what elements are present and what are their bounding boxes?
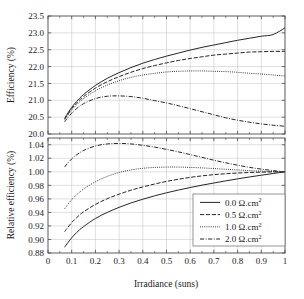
- legend-label-3[interactable]: 2.0 Ω.cm2: [225, 233, 262, 244]
- x-tick-label: 0.4: [137, 256, 149, 266]
- lower-y-axis-label: Relative efficiency (%): [6, 151, 17, 239]
- lower-y-tick-label: 1.04: [28, 140, 44, 150]
- x-tick-label: 0.2: [90, 256, 101, 266]
- lower-y-tick-label: 0.88: [28, 248, 44, 258]
- upper-y-tick-label: 21.5: [28, 79, 44, 89]
- x-tick-label: 0.7: [208, 256, 220, 266]
- lower-y-tick-labels: 0.880.900.920.940.960.981.001.021.04: [28, 140, 44, 258]
- x-tick-label: 0.9: [256, 256, 268, 266]
- lower-y-tick-label: 0.98: [28, 181, 44, 191]
- x-tick-label: 0: [46, 256, 51, 266]
- lower-y-tick-label: 0.90: [28, 235, 44, 245]
- upper-y-axis-label: Efficiency (%): [6, 47, 17, 103]
- x-tick-label: 0.5: [161, 256, 173, 266]
- x-tick-label: 0.6: [185, 256, 197, 266]
- lower-y-tick-label: 1.02: [28, 153, 44, 163]
- lower-y-tick-label: 0.94: [28, 208, 44, 218]
- legend-label-2[interactable]: 1.0 Ω.cm2: [225, 221, 262, 232]
- upper-y-tick-label: 20.5: [28, 112, 44, 122]
- x-axis-label: Irradiance (suns): [134, 279, 198, 290]
- x-tick-label: 0.1: [66, 256, 77, 266]
- legend[interactable]: 0.0 Ω.cm20.5 Ω.cm21.0 Ω.cm22.0 Ω.cm2: [193, 194, 285, 246]
- upper-y-tick-label: 23.0: [28, 28, 44, 38]
- upper-y-tick-label: 21.0: [28, 95, 44, 105]
- x-tick-label: 0.8: [232, 256, 244, 266]
- legend-label-0[interactable]: 0.0 Ω.cm2: [225, 196, 262, 207]
- upper-y-tick-label: 23.5: [28, 11, 44, 21]
- upper-panel: 20.020.521.021.522.022.523.023.5 Efficie…: [6, 11, 285, 139]
- upper-y-tick-label: 22.0: [28, 62, 44, 72]
- x-tick-label: 1: [283, 256, 288, 266]
- lower-y-tick-label: 0.92: [28, 221, 44, 231]
- legend-label-1[interactable]: 0.5 Ω.cm2: [225, 209, 262, 220]
- upper-y-tick-label: 20.0: [28, 129, 44, 139]
- x-tick-label: 0.3: [113, 256, 125, 266]
- figure-container: 20.020.521.021.522.022.523.023.5 Efficie…: [0, 0, 304, 299]
- upper-y-tick-label: 22.5: [28, 45, 44, 55]
- lower-y-tick-label: 1.00: [28, 167, 44, 177]
- lower-y-tick-label: 0.96: [28, 194, 44, 204]
- chart-svg: 20.020.521.021.522.022.523.023.5 Efficie…: [0, 0, 304, 299]
